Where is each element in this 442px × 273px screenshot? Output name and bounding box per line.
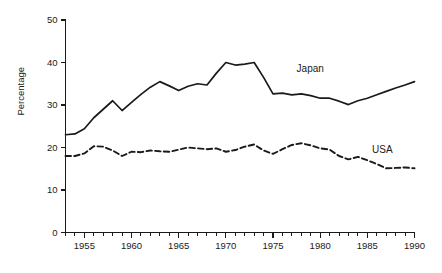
series-line-usa xyxy=(66,143,415,168)
series-label-usa: USA xyxy=(372,144,393,155)
series-lines-group xyxy=(66,63,415,169)
series-label-japan: Japan xyxy=(297,63,324,74)
y-tick-label: 20 xyxy=(47,142,58,153)
x-tick-label: 1970 xyxy=(215,240,236,251)
y-tick-label: 40 xyxy=(47,57,58,68)
x-axis-tick-labels: 19551960196519701975198019851990 xyxy=(74,240,425,251)
series-line-japan xyxy=(66,63,415,135)
x-tick-label: 1960 xyxy=(121,240,142,251)
line-chart-figure: 01020304050 Percentage 19551960196519701… xyxy=(0,0,442,273)
x-tick-label: 1975 xyxy=(262,240,283,251)
y-tick-label: 30 xyxy=(47,99,58,110)
chart-container: 01020304050 Percentage 19551960196519701… xyxy=(0,0,442,273)
x-tick-label: 1985 xyxy=(357,240,378,251)
y-tick-label: 50 xyxy=(47,14,58,25)
y-axis-title: Percentage xyxy=(15,67,26,116)
x-tick-label: 1955 xyxy=(74,240,95,251)
y-tick-label: 0 xyxy=(52,227,57,238)
y-axis-group: 01020304050 Percentage xyxy=(15,14,66,238)
x-axis-major-ticks xyxy=(84,233,414,239)
x-axis-group: 19551960196519701975198019851990 xyxy=(66,233,426,251)
x-tick-label: 1965 xyxy=(168,240,189,251)
y-tick-label: 10 xyxy=(47,184,58,195)
series-labels-group: JapanUSA xyxy=(297,63,393,155)
y-axis-tick-labels: 01020304050 xyxy=(47,14,58,238)
x-tick-label: 1980 xyxy=(310,240,331,251)
y-axis-ticks xyxy=(61,20,66,233)
x-tick-label: 1990 xyxy=(404,240,425,251)
